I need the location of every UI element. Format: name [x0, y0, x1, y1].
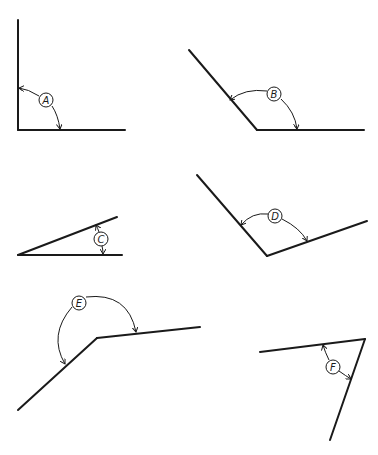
angle-c-arc-upper: [96, 225, 99, 232]
angle-d-ray-left: [197, 175, 267, 256]
angle-b-ray-left: [189, 50, 257, 130]
angle-c-arc-lower: [102, 246, 103, 254]
angle-f-arc-upper: [323, 345, 329, 360]
angle-b-arc-right: [281, 99, 297, 129]
angle-f-arc-lower: [339, 371, 351, 379]
angle-e-arc-left: [58, 307, 72, 364]
angle-f-ray-left: [260, 339, 365, 352]
angle-e-arc-right: [86, 296, 136, 332]
angle-b-arc-left: [230, 90, 267, 100]
angle-e: E: [18, 296, 200, 410]
angle-f-label: F: [330, 362, 336, 373]
angle-d-arc-right: [282, 219, 307, 241]
angle-e-ray-right: [97, 327, 200, 338]
angle-c: C: [18, 217, 122, 255]
angle-d-ray-right: [267, 221, 367, 256]
angle-a: A: [18, 20, 125, 130]
angle-d-label: D: [271, 211, 279, 222]
angle-d: D: [197, 175, 367, 256]
angle-e-ray-left: [18, 338, 97, 410]
angle-f: F: [260, 339, 365, 440]
angle-f-ray-down: [330, 339, 365, 440]
angle-c-label: C: [98, 234, 105, 245]
angles-diagram: A B C D E: [0, 0, 378, 455]
angle-b: B: [189, 50, 364, 130]
angle-e-label: E: [76, 298, 83, 309]
angle-b-label: B: [271, 89, 278, 100]
angle-a-arc-right: [52, 106, 60, 129]
angle-a-label: A: [42, 95, 50, 106]
angle-a-arc-left: [19, 88, 39, 96]
angle-d-arc-left: [241, 214, 268, 225]
